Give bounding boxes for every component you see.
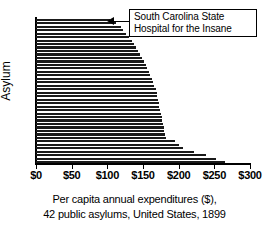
bar-42 xyxy=(36,161,225,163)
bar-19 xyxy=(36,81,153,83)
callout-leader-line xyxy=(112,21,130,22)
y-axis-label: Asylum xyxy=(0,61,13,100)
bar-11 xyxy=(36,53,140,55)
bar-14 xyxy=(36,64,146,66)
bar-2 xyxy=(36,22,116,24)
x-tick-label-4: $200 xyxy=(167,169,190,181)
bar-24 xyxy=(36,99,158,101)
x-tick-label-1: $50 xyxy=(63,169,80,181)
x-tick-label-2: $100 xyxy=(96,169,119,181)
bar-22 xyxy=(36,92,157,94)
bar-37 xyxy=(36,144,179,146)
bar-38 xyxy=(36,147,183,149)
bar-3 xyxy=(36,26,121,28)
bar-16 xyxy=(36,71,149,73)
bar-31 xyxy=(36,123,163,125)
caption-line-1: Per capita annual expenditures ($), xyxy=(0,192,269,207)
bar-39 xyxy=(36,151,194,153)
bar-9 xyxy=(36,46,136,48)
bar-21 xyxy=(36,88,156,90)
bar-40 xyxy=(36,154,206,156)
chart-figure: Asylum $0$50$100$150$200$250$300 South C… xyxy=(0,0,269,237)
bar-25 xyxy=(36,102,159,104)
annotation-line-2: Hospital for the Insane xyxy=(134,23,253,35)
bar-27 xyxy=(36,109,160,111)
bar-8 xyxy=(36,43,134,45)
bar-32 xyxy=(36,126,164,128)
bar-35 xyxy=(36,137,166,139)
annotation-line-1: South Carolina State xyxy=(134,11,253,23)
bar-36 xyxy=(36,140,175,142)
plot-area xyxy=(36,18,250,164)
bar-34 xyxy=(36,133,165,135)
bar-41 xyxy=(36,158,216,160)
x-tick-label-6: $300 xyxy=(238,169,261,181)
bar-23 xyxy=(36,95,157,97)
bar-26 xyxy=(36,106,159,108)
bar-28 xyxy=(36,113,161,115)
bar-series xyxy=(36,18,250,164)
bar-7 xyxy=(36,40,132,42)
annotation-callout: South Carolina State Hospital for the In… xyxy=(129,9,257,37)
bar-29 xyxy=(36,116,162,118)
x-tick-label-5: $250 xyxy=(203,169,226,181)
bar-5 xyxy=(36,33,126,35)
bar-33 xyxy=(36,130,164,132)
bar-10 xyxy=(36,50,138,52)
bar-17 xyxy=(36,74,150,76)
x-tick-label-0: $0 xyxy=(30,169,42,181)
bar-15 xyxy=(36,67,147,69)
bar-1 xyxy=(36,19,110,21)
x-tick-label-3: $150 xyxy=(131,169,154,181)
bar-20 xyxy=(36,85,154,87)
bar-4 xyxy=(36,29,123,31)
bar-6 xyxy=(36,36,129,38)
chart-caption: Per capita annual expenditures ($), 42 p… xyxy=(0,192,269,222)
bar-12 xyxy=(36,57,142,59)
bar-30 xyxy=(36,119,162,121)
bar-18 xyxy=(36,78,152,80)
caption-line-2: 42 public asylums, United States, 1899 xyxy=(0,207,269,222)
bar-13 xyxy=(36,60,144,62)
